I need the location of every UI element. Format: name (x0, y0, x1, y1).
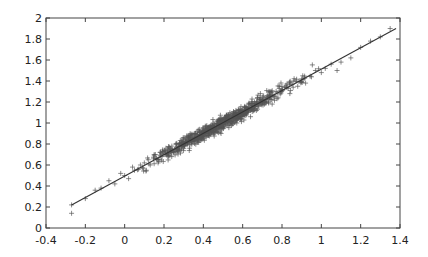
y-tick-label: 0.6 (25, 159, 43, 172)
data-point-marker (106, 178, 111, 183)
data-point-marker (339, 60, 344, 65)
x-tick-label: 0.2 (155, 234, 173, 247)
y-tick-label: 2 (35, 12, 42, 25)
x-tick-label: 1.2 (352, 234, 370, 247)
data-point-marker (335, 68, 340, 73)
x-tick-label: 1 (318, 234, 325, 247)
data-point-marker (319, 70, 324, 75)
x-tick-label: 1.4 (391, 234, 409, 247)
data-point-marker (144, 169, 149, 174)
y-tick-label: 0.8 (25, 138, 43, 151)
x-tick-label: 0.6 (234, 234, 252, 247)
y-tick-label: 0.2 (25, 201, 43, 214)
y-tick-label: 1.6 (25, 54, 43, 67)
y-tick-label: 1.4 (25, 75, 43, 88)
y-tick-label: 1.8 (25, 33, 43, 46)
y-tick-label: 0 (35, 222, 42, 235)
data-point-marker (276, 83, 281, 88)
data-point-marker (310, 62, 315, 67)
data-point-marker (248, 114, 253, 119)
y-tick-label: 1.2 (25, 96, 43, 109)
data-point-marker (152, 161, 157, 166)
data-point-marker (250, 97, 255, 102)
y-tick-label: 1 (35, 117, 42, 130)
scatter-chart: -0.4-0.200.20.40.60.811.21.4 00.20.40.60… (0, 0, 428, 257)
x-tick-label: -0.2 (75, 234, 96, 247)
data-point-marker (295, 84, 300, 89)
data-point-marker (69, 211, 74, 216)
scatter-points (69, 26, 393, 216)
data-point-marker (348, 55, 353, 60)
x-tick-label: 0 (121, 234, 128, 247)
x-tick-label: 0.4 (195, 234, 213, 247)
x-tick-label: 0.8 (273, 234, 291, 247)
data-point-marker (187, 148, 192, 153)
data-point-marker (287, 91, 292, 96)
regression-line (72, 29, 397, 205)
y-tick-label: 0.4 (25, 180, 43, 193)
x-tick-label: -0.4 (35, 234, 56, 247)
data-point-marker (126, 176, 131, 181)
